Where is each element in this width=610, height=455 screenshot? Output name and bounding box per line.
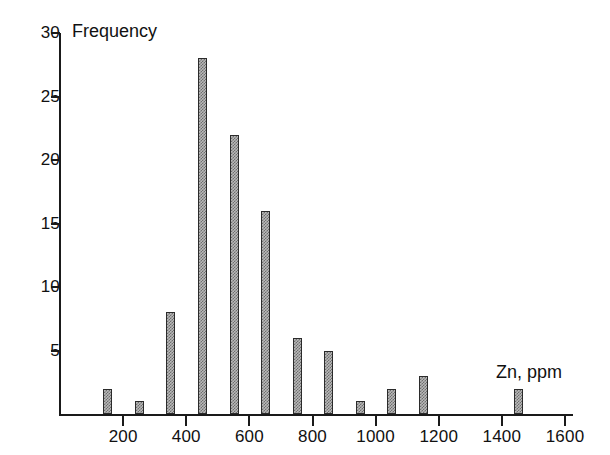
x-axis-tick-mark xyxy=(438,416,440,426)
y-axis-tick: 20 xyxy=(0,159,60,161)
x-axis-tick-mark xyxy=(312,416,314,426)
x-axis-tick-mark xyxy=(185,416,187,426)
x-axis-tick-label: 1200 xyxy=(404,428,474,445)
histogram-bar xyxy=(166,312,175,414)
histogram-bar xyxy=(261,211,270,414)
x-axis-tick-label: 600 xyxy=(214,428,284,445)
y-axis-tick-mark xyxy=(51,32,60,34)
x-axis-tick-label: 1400 xyxy=(467,428,537,445)
y-axis-tick: 30 xyxy=(0,32,60,34)
x-axis-tick-mark xyxy=(564,416,566,426)
x-axis-tick-mark xyxy=(248,416,250,426)
y-axis-tick: 10 xyxy=(0,286,60,288)
x-axis-line xyxy=(59,414,573,416)
x-axis-tick-label: 400 xyxy=(151,428,221,445)
y-axis-title: Frequency xyxy=(72,22,157,40)
y-axis-tick-mark xyxy=(51,350,60,352)
histogram-bar xyxy=(356,401,365,414)
x-axis-tick-mark xyxy=(501,416,503,426)
histogram-bar xyxy=(230,135,239,414)
x-axis-title: Zn, ppm xyxy=(496,363,562,381)
y-axis-tick: 25 xyxy=(0,96,60,98)
x-axis-tick-label: 200 xyxy=(88,428,158,445)
y-axis-tick-mark xyxy=(51,159,60,161)
x-axis-tick-label: 1000 xyxy=(341,428,411,445)
histogram-chart: Frequency Zn, ppm 51015202530 2004006008… xyxy=(0,0,610,455)
histogram-bar xyxy=(103,389,112,414)
y-axis-tick-mark xyxy=(51,286,60,288)
y-axis-tick-mark xyxy=(51,223,60,225)
x-axis-tick-mark xyxy=(122,416,124,426)
histogram-bar xyxy=(387,389,396,414)
x-axis-tick-label: 800 xyxy=(278,428,348,445)
y-axis-tick: 5 xyxy=(0,350,60,352)
histogram-bar xyxy=(324,351,333,415)
histogram-bar xyxy=(198,58,207,414)
y-axis-tick-mark xyxy=(51,96,60,98)
x-axis-tick-label: 1600 xyxy=(530,428,600,445)
x-axis-tick-mark xyxy=(375,416,377,426)
histogram-bar xyxy=(293,338,302,414)
histogram-bar xyxy=(135,401,144,414)
y-axis-tick: 15 xyxy=(0,223,60,225)
histogram-bar xyxy=(419,376,428,414)
histogram-bar xyxy=(514,389,523,414)
